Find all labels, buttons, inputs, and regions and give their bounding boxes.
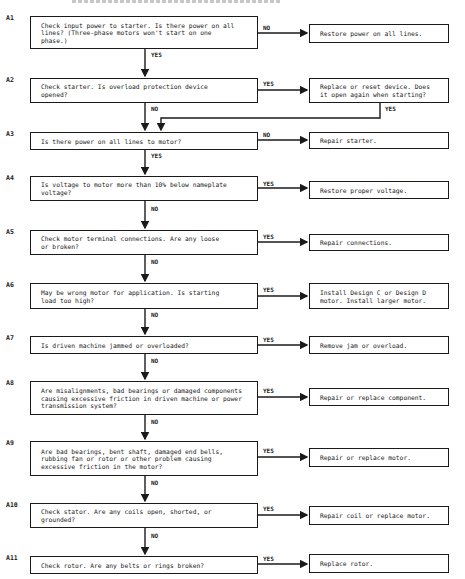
question-box-a7: Is driven machine jammed or overloaded? bbox=[30, 336, 258, 354]
action-text: Repair or replace motor. bbox=[320, 454, 411, 462]
action-box-a10: Repair coil or replace motor. bbox=[309, 506, 449, 525]
action-box-a3: Repair starter. bbox=[309, 132, 449, 149]
branch-label-a9: YES bbox=[263, 447, 274, 454]
continue-label-a3: YES bbox=[151, 152, 162, 159]
branch-label-a6: YES bbox=[263, 286, 274, 293]
action-text: Replace rotor. bbox=[320, 560, 373, 568]
action-box-a8: Repair or replace component. bbox=[309, 388, 449, 406]
step-id-a4: A4 bbox=[6, 174, 14, 182]
step-id-a8: A8 bbox=[6, 379, 14, 387]
continue-label-a8: NO bbox=[151, 418, 158, 425]
action-box-a5: Repair connections. bbox=[309, 234, 449, 251]
action-box-a4: Restore proper voltage. bbox=[309, 181, 449, 199]
step-id-a1: A1 bbox=[6, 14, 14, 22]
continue-label-a4: NO bbox=[151, 205, 158, 212]
continue-label-a1: YES bbox=[151, 51, 162, 58]
continue-label-a2: NO bbox=[151, 105, 158, 112]
action-box-a6: Install Design C or Design D motor. Inst… bbox=[309, 283, 449, 309]
action-text: Remove jam or overload. bbox=[320, 342, 407, 350]
question-box-a6: May be wrong motor for application. Is s… bbox=[30, 283, 258, 309]
action-text: Restore power on all lines. bbox=[320, 30, 422, 38]
continue-label-a9: NO bbox=[151, 479, 158, 486]
question-text: Is there power on all lines to motor? bbox=[41, 138, 181, 146]
question-text: Check input power to starter. Is there p… bbox=[41, 22, 234, 45]
question-text: Check motor terminal connections. Are an… bbox=[41, 235, 219, 250]
question-text: Are misalignments, bad bearings or damag… bbox=[41, 387, 242, 410]
action-text: Replace or reset device. Does it open ag… bbox=[320, 83, 430, 98]
question-box-a1: Check input power to starter. Is there p… bbox=[30, 16, 258, 49]
question-box-a2: Check starter. Is overload protection de… bbox=[30, 78, 258, 103]
step-id-a11: A11 bbox=[6, 554, 18, 562]
action-box-a2: Replace or reset device. Does it open ag… bbox=[309, 78, 449, 103]
question-text: Is voltage to motor more than 10% below … bbox=[41, 181, 227, 196]
action-text: Repair coil or replace motor. bbox=[320, 512, 430, 520]
continue-label-a10: NO bbox=[151, 532, 158, 539]
step-id-a6: A6 bbox=[6, 281, 14, 289]
action-box-a11: Replace rotor. bbox=[309, 554, 449, 573]
question-box-a4: Is voltage to motor more than 10% below … bbox=[30, 176, 258, 201]
branch-label-a1: NO bbox=[263, 24, 270, 31]
step-id-a2: A2 bbox=[6, 76, 14, 84]
branch-label-a11: YES bbox=[263, 555, 274, 562]
action-text: Install Design C or Design D motor. Inst… bbox=[320, 289, 426, 304]
action-box-a7: Remove jam or overload. bbox=[309, 336, 449, 354]
question-text: Check starter. Is overload protection de… bbox=[41, 83, 208, 98]
action-text: Repair connections. bbox=[320, 239, 392, 247]
flowchart-canvas: A1 A2 A3 A4 A5 A6 A7 A8 A9 A10 A11 Check… bbox=[0, 0, 465, 579]
question-box-a9: Are bad bearings, bent shaft, damaged en… bbox=[30, 441, 258, 476]
branch-label-a10: YES bbox=[263, 505, 274, 512]
branch-label-a7: YES bbox=[263, 336, 274, 343]
step-id-a3: A3 bbox=[6, 130, 14, 138]
action-text: Restore proper voltage. bbox=[320, 187, 407, 195]
branch-label-a8: YES bbox=[263, 387, 274, 394]
continue-label-a5: NO bbox=[151, 258, 158, 265]
question-text: Is driven machine jammed or overloaded? bbox=[41, 342, 189, 350]
branch-label-a3: NO bbox=[263, 131, 270, 138]
action-text: Repair or replace component. bbox=[320, 394, 426, 402]
question-text: Are bad bearings, bent shaft, damaged en… bbox=[41, 448, 223, 471]
question-box-a11: Check rotor. Are any belts or rings brok… bbox=[30, 556, 258, 574]
step-id-a9: A9 bbox=[6, 439, 14, 447]
question-text: May be wrong motor for application. Is s… bbox=[41, 289, 219, 304]
question-text: Check rotor. Are any belts or rings brok… bbox=[41, 562, 204, 570]
step-id-a5: A5 bbox=[6, 228, 14, 236]
branch-label-a2: YES bbox=[263, 80, 274, 87]
action-box-a1: Restore power on all lines. bbox=[309, 24, 449, 43]
question-text: Check stator. Are any coils open, shorte… bbox=[41, 508, 212, 523]
question-box-a5: Check motor terminal connections. Are an… bbox=[30, 230, 258, 255]
action-text: Repair starter. bbox=[320, 137, 377, 145]
question-box-a8: Are misalignments, bad bearings or damag… bbox=[30, 381, 258, 415]
branch-label-a4: YES bbox=[263, 180, 274, 187]
continue-label-a6: NO bbox=[151, 311, 158, 318]
step-id-a7: A7 bbox=[6, 334, 14, 342]
action-box-a9: Repair or replace motor. bbox=[309, 448, 449, 467]
step-id-a10: A10 bbox=[6, 501, 18, 509]
question-box-a10: Check stator. Are any coils open, shorte… bbox=[30, 503, 258, 528]
followup-label-a2: YES bbox=[385, 105, 396, 112]
continue-label-a7: NO bbox=[151, 357, 158, 364]
question-box-a3: Is there power on all lines to motor? bbox=[30, 132, 258, 150]
branch-label-a5: YES bbox=[263, 233, 274, 240]
